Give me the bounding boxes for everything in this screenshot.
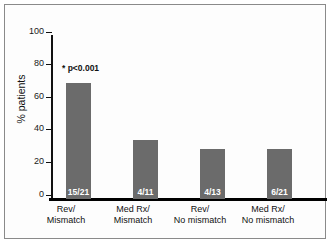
x-tick-label-line1: Rev/ (163, 204, 237, 215)
y-tick-mark-100 (46, 32, 52, 33)
bar-med-rx-mismatch[interactable]: 4/11 (133, 140, 158, 199)
plot-area: 15/21 4/11 4/13 6/21 (52, 36, 323, 199)
x-tick-label-med-rx-mismatch: Med Rx/ Mismatch (98, 204, 168, 226)
y-axis-title: % patients (15, 59, 27, 139)
x-tick-label-line1: Rev/ (31, 204, 101, 215)
x-tick-label-line2: Mismatch (98, 215, 168, 226)
bar-value-label: 15/21 (66, 187, 91, 197)
figure-frame: 100 80 60 40 20 0 % patients * p<0.001 1… (4, 4, 326, 239)
bar-value-label: 4/11 (133, 187, 158, 197)
x-tick-label-line2: No mismatch (230, 215, 306, 226)
bar-value-label: 6/21 (267, 187, 292, 197)
x-tick-label-line2: No mismatch (163, 215, 237, 226)
x-tick-label-line1: Med Rx/ (98, 204, 168, 215)
x-tick-label-rev-no-mismatch: Rev/ No mismatch (163, 204, 237, 226)
x-tick-label-line2: Mismatch (31, 215, 101, 226)
x-tick-label-rev-mismatch: Rev/ Mismatch (31, 204, 101, 226)
bar-value-label: 4/13 (200, 187, 225, 197)
x-tick-label-line1: Med Rx/ (230, 204, 306, 215)
y-tick-label-100: 100 (18, 26, 44, 36)
bar-rev-no-mismatch[interactable]: 4/13 (200, 149, 225, 200)
y-tick-label-20: 20 (18, 156, 44, 166)
y-tick-label-0: 0 (18, 189, 44, 199)
bar-rev-mismatch[interactable]: 15/21 (66, 83, 91, 199)
bar-med-rx-no-mismatch[interactable]: 6/21 (267, 149, 292, 199)
x-tick-label-med-rx-no-mismatch: Med Rx/ No mismatch (230, 204, 306, 226)
